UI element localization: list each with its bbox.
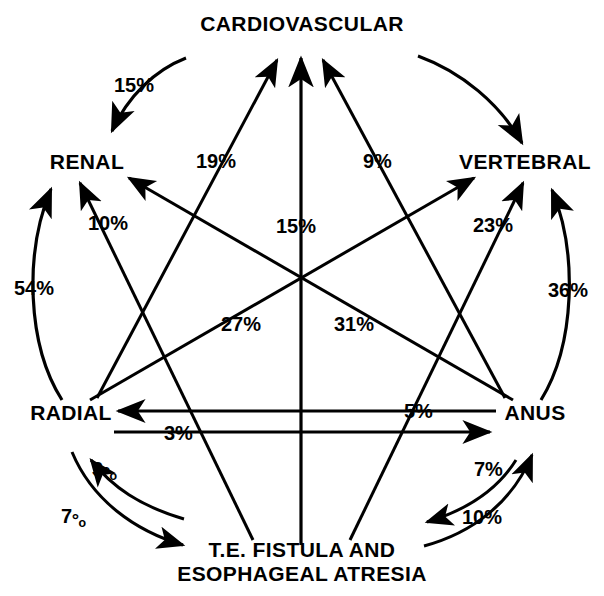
- node-anus: ANUS: [480, 401, 590, 425]
- node-te-fistula-line2: ESOPHAGEAL ATRESIA: [152, 562, 452, 586]
- label-radial-vertebral: 23%: [473, 214, 513, 237]
- label-radial-renal: 54%: [14, 277, 54, 300]
- label-radial-cardiovascular: 19%: [196, 150, 236, 173]
- label-anus-vertebral: 36%: [548, 279, 588, 302]
- node-te-fistula: T.E. FISTULA AND ESOPHAGEAL ATRESIA: [152, 538, 452, 587]
- label-anus-radial: 5%: [404, 400, 433, 423]
- label-tefistula-cardiovascular: 15%: [276, 215, 316, 238]
- label-tefistula-radial-value: 3: [92, 458, 103, 480]
- label-tefistula-renal: 27%: [221, 313, 261, 336]
- label-tefistula-radial: 3°ₒ: [92, 458, 117, 484]
- label-tefistula-radial-symbol: °ₒ: [103, 462, 117, 483]
- edge-cardiovascular-to-vertebral: [418, 56, 522, 143]
- label-tefistula-vertebral: 31%: [334, 313, 374, 336]
- label-radial-anus: 3%: [164, 422, 193, 445]
- node-te-fistula-line1: T.E. FISTULA AND: [152, 538, 452, 562]
- node-vertebral: VERTEBRAL: [450, 150, 600, 174]
- vacterl-association-diagram: CARDIOVASCULAR RENAL VERTEBRAL RADIAL AN…: [0, 0, 604, 596]
- label-tefistula-anus: 10%: [462, 506, 502, 529]
- node-cardiovascular: CARDIOVASCULAR: [0, 12, 604, 36]
- label-cardiovascular-renal: 15%: [114, 74, 154, 97]
- label-anus-tefistula: 7%: [474, 458, 503, 481]
- edge-radial-to-tefistula: [72, 452, 183, 545]
- edge-tefistula-to-renal: [80, 183, 253, 540]
- diagram-canvas: [0, 0, 604, 596]
- node-radial: RADIAL: [16, 401, 126, 425]
- label-radial-tefistula: 7°ₒ: [61, 505, 86, 531]
- label-radial-tefistula-value: 7: [61, 505, 72, 527]
- label-anus-renal: 10%: [88, 212, 128, 235]
- edge-anus-to-renal: [129, 178, 513, 400]
- label-radial-tefistula-symbol: °ₒ: [72, 509, 86, 530]
- node-renal: RENAL: [22, 150, 152, 174]
- label-anus-cardiovascular: 9%: [363, 150, 392, 173]
- edge-radial-to-vertebral: [90, 178, 474, 400]
